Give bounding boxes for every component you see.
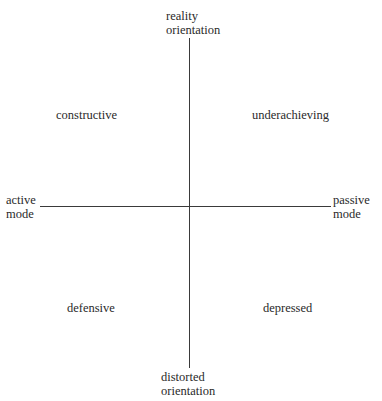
axis-label-line: orientation bbox=[161, 384, 215, 398]
quadrant-label-defensive: defensive bbox=[67, 301, 115, 315]
axis-label-reality-orientation: reality orientation bbox=[166, 9, 220, 37]
quadrant-label-constructive: constructive bbox=[56, 108, 117, 122]
quadrant-diagram: reality orientation distorted orientatio… bbox=[0, 0, 382, 401]
axis-label-line: passive bbox=[333, 193, 370, 207]
quadrant-label-depressed: depressed bbox=[263, 301, 312, 315]
axis-label-distorted-orientation: distorted orientation bbox=[161, 370, 215, 398]
axis-label-line: reality bbox=[166, 9, 220, 23]
quadrant-label-underachieving: underachieving bbox=[252, 108, 329, 122]
axis-label-line: orientation bbox=[166, 23, 220, 37]
axis-label-line: mode bbox=[6, 207, 36, 221]
axis-label-line: mode bbox=[333, 207, 370, 221]
horizontal-axis-line bbox=[40, 206, 331, 207]
vertical-axis-line bbox=[189, 38, 190, 368]
axis-label-line: distorted bbox=[161, 370, 215, 384]
axis-label-passive-mode: passive mode bbox=[333, 193, 370, 221]
axis-label-line: active bbox=[6, 193, 36, 207]
axis-label-active-mode: active mode bbox=[6, 193, 36, 221]
